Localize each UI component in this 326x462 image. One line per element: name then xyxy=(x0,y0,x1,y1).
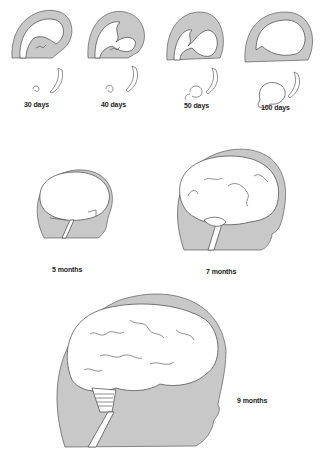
infant-head-9-months xyxy=(0,0,326,462)
stage-label: 9 months xyxy=(237,397,267,404)
